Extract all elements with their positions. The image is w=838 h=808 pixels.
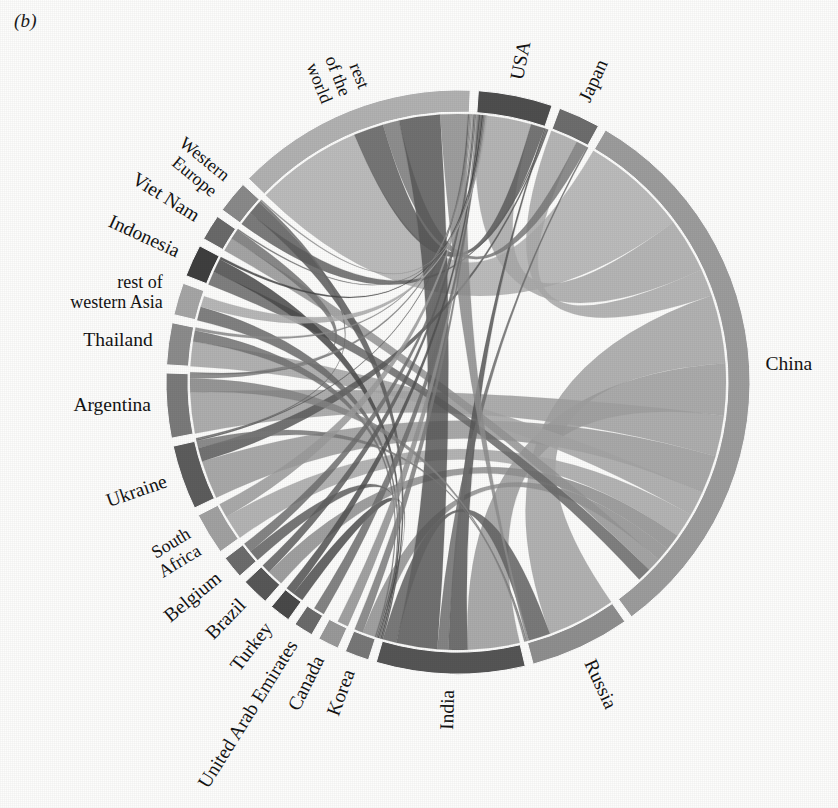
chord-ribbons xyxy=(190,114,726,650)
chord-arc-thailand[interactable] xyxy=(167,323,194,366)
arc-label-india: India xyxy=(437,689,459,730)
arc-label-china: China xyxy=(766,353,813,374)
arc-label-korea: Korea xyxy=(323,666,359,718)
arc-label-japan: Japan xyxy=(575,56,613,105)
arc-label-ukraine: Ukraine xyxy=(104,471,170,511)
arc-label-indonesia: Indonesia xyxy=(105,211,183,262)
arc-label-russia: Russia xyxy=(580,656,621,712)
arc-label-rest-of-western-asia: rest ofwestern Asia xyxy=(70,272,162,312)
arc-label-thailand: Thailand xyxy=(83,329,153,350)
arc-label-south-africa: SouthAfrica xyxy=(144,524,204,582)
arc-label-argentina: Argentina xyxy=(73,395,151,416)
arc-label-brazil: Brazil xyxy=(202,594,251,643)
chord-arc-argentina[interactable] xyxy=(166,373,193,438)
arc-label-usa: USA xyxy=(507,39,535,81)
arc-label-rest-of-the-world: restof theworld xyxy=(302,45,373,106)
chord-diagram: USAJapanChinaRussiaIndiaKoreaCanadaUnite… xyxy=(0,0,838,808)
chord-diagram-canvas: USAJapanChinaRussiaIndiaKoreaCanadaUnite… xyxy=(0,0,838,808)
